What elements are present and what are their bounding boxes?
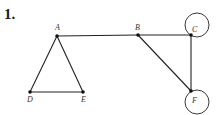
graph-edges [30,35,191,92]
edge-AD [30,36,57,92]
graph-diagram: ABCDEF [0,0,223,115]
vertex-B [136,33,140,37]
vertex-label-D: D [26,95,33,104]
vertex-label-B: B [135,23,140,32]
vertex-D [28,90,32,94]
vertex-label-A: A [54,23,60,32]
graph-vertices [28,33,193,94]
vertex-A [55,34,59,38]
vertex-label-F: F [191,96,197,105]
loop-F [185,90,209,114]
edge-BF [138,35,191,91]
vertex-F [189,89,193,93]
vertex-label-C: C [192,25,198,34]
edge-AB [57,35,138,36]
vertex-label-E: E [80,95,86,104]
vertex-E [81,90,85,94]
edge-AE [57,36,83,92]
